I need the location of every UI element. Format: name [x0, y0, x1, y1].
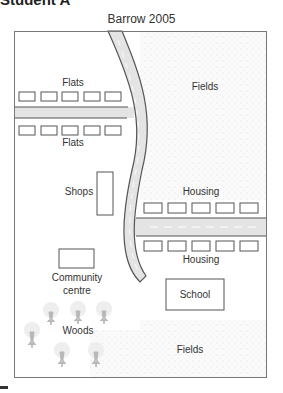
community-centre-building [59, 249, 94, 268]
label-community-line2: centre [63, 285, 91, 296]
tree-icon [24, 322, 40, 348]
label-school: School [166, 289, 224, 300]
map-canvas [0, 0, 283, 393]
label-fields-top: Fields [185, 81, 225, 92]
corner-mark [0, 386, 8, 389]
label-flats-top: Flats [55, 77, 91, 88]
label-community-line1: Community [52, 272, 103, 283]
tree-icon [54, 342, 70, 367]
label-woods: Woods [58, 325, 98, 336]
label-housing-top: Housing [178, 186, 224, 197]
road-west [14, 107, 134, 118]
housing-bottom-row [144, 241, 258, 251]
label-shops: Shops [64, 186, 94, 197]
label-flats-bottom: Flats [55, 137, 91, 148]
tree-icon [43, 302, 59, 325]
label-fields-bottom: Fields [170, 344, 210, 355]
housing-top-row [144, 203, 258, 213]
road-east [130, 218, 267, 236]
tree-icon [96, 301, 112, 324]
label-community-centre: Community centre [44, 271, 110, 297]
flats-bottom-row [19, 126, 121, 135]
label-housing-bottom: Housing [178, 254, 224, 265]
shops-building [97, 172, 113, 215]
flats-top-row [19, 92, 121, 101]
fields-area-top [140, 32, 266, 200]
tree-icon [70, 301, 86, 324]
